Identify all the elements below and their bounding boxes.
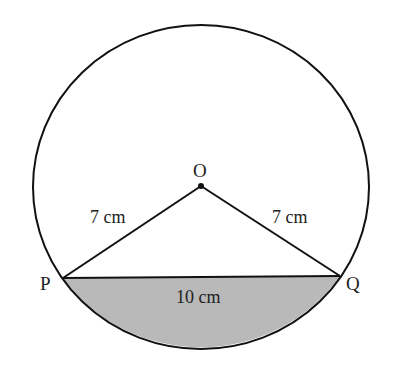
center-point-O (198, 183, 204, 189)
radius-OQ (201, 186, 340, 276)
label-OQ-length: 7 cm (272, 207, 308, 227)
label-O: O (193, 160, 207, 181)
label-PQ-length: 10 cm (176, 287, 221, 307)
circle-segment-diagram: O P Q 7 cm 7 cm 10 cm (0, 0, 393, 366)
label-OP-length: 7 cm (90, 207, 126, 227)
radius-OP (63, 186, 201, 278)
label-P: P (40, 273, 51, 294)
label-Q: Q (346, 273, 360, 294)
